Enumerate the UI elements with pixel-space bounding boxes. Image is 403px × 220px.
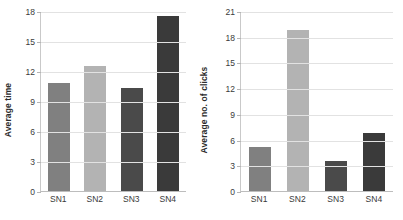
x-tick-label: SN4 bbox=[355, 194, 393, 204]
plot-wrapper-right: 036912151821 SN1SN2SN3SN4 bbox=[216, 0, 395, 220]
y-tick-label: 18 bbox=[26, 8, 35, 17]
y-tick-mark bbox=[37, 72, 41, 73]
bar-slot bbox=[317, 12, 355, 191]
x-tick-label: SN2 bbox=[77, 194, 114, 204]
gridline bbox=[41, 72, 186, 73]
gridline bbox=[241, 192, 393, 193]
gridline bbox=[241, 115, 393, 116]
y-tick-mark bbox=[37, 12, 41, 13]
plot-area-left bbox=[40, 12, 186, 192]
x-tick-label: SN1 bbox=[240, 194, 278, 204]
gridline bbox=[241, 141, 393, 142]
y-tick-label: 0 bbox=[30, 188, 35, 197]
x-axis-labels-right: SN1SN2SN3SN4 bbox=[240, 194, 393, 204]
y-tick-mark bbox=[37, 42, 41, 43]
gridline bbox=[41, 12, 186, 13]
y-tick-mark bbox=[237, 12, 241, 13]
y-tick-mark bbox=[237, 89, 241, 90]
bar-slot bbox=[355, 12, 393, 191]
y-tick-label: 21 bbox=[226, 8, 235, 17]
gridline bbox=[241, 12, 393, 13]
y-tick-mark bbox=[37, 162, 41, 163]
y-tick-mark bbox=[237, 38, 241, 39]
y-tick-mark bbox=[237, 115, 241, 116]
y-tick-label: 18 bbox=[226, 33, 235, 42]
plot-wrapper-left: 0369121518 SN1SN2SN3SN4 bbox=[16, 0, 188, 220]
gridline bbox=[41, 102, 186, 103]
y-tick-label: 12 bbox=[26, 68, 35, 77]
bar bbox=[84, 66, 106, 191]
y-tick-mark bbox=[237, 192, 241, 193]
x-axis-labels-left: SN1SN2SN3SN4 bbox=[40, 194, 186, 204]
y-axis-title-left-text: Average time bbox=[3, 83, 13, 137]
bar-group-right bbox=[241, 12, 393, 191]
bar bbox=[121, 88, 143, 191]
bar-slot bbox=[241, 12, 279, 191]
gridline bbox=[41, 192, 186, 193]
chart-panel-average-clicks: Average no. of clicks 036912151821 SN1SN… bbox=[196, 0, 403, 220]
y-tick-mark bbox=[237, 63, 241, 64]
x-tick-label: SN3 bbox=[317, 194, 355, 204]
x-tick-label: SN1 bbox=[40, 194, 77, 204]
x-tick-label: SN3 bbox=[113, 194, 150, 204]
y-axis-title-right: Average no. of clicks bbox=[196, 0, 212, 220]
y-tick-mark bbox=[237, 141, 241, 142]
plot-area-right bbox=[240, 12, 393, 192]
gridline bbox=[241, 89, 393, 90]
y-tick-mark bbox=[37, 132, 41, 133]
y-axis-title-left: Average time bbox=[0, 0, 16, 220]
y-tick-label: 9 bbox=[30, 98, 35, 107]
y-tick-label: 15 bbox=[226, 59, 235, 68]
y-tick-label: 6 bbox=[30, 128, 35, 137]
y-tick-mark bbox=[37, 102, 41, 103]
gridline bbox=[241, 63, 393, 64]
gridline bbox=[241, 38, 393, 39]
bar bbox=[48, 83, 70, 191]
bar-slot bbox=[279, 12, 317, 191]
y-tick-label: 9 bbox=[230, 111, 235, 120]
y-axis-ticks-right: 036912151821 bbox=[216, 0, 238, 220]
y-tick-mark bbox=[37, 192, 41, 193]
y-tick-label: 15 bbox=[26, 38, 35, 47]
gridline bbox=[41, 132, 186, 133]
bar-chart-figure: Average time 0369121518 SN1SN2SN3SN4 Ave… bbox=[0, 0, 403, 220]
bar bbox=[249, 147, 271, 191]
x-tick-label: SN2 bbox=[278, 194, 316, 204]
y-axis-title-right-text: Average no. of clicks bbox=[199, 67, 209, 154]
gridline bbox=[241, 166, 393, 167]
y-tick-label: 12 bbox=[226, 85, 235, 94]
y-tick-label: 3 bbox=[230, 162, 235, 171]
gridline bbox=[41, 42, 186, 43]
y-tick-label: 3 bbox=[30, 158, 35, 167]
gridline bbox=[41, 162, 186, 163]
y-tick-label: 6 bbox=[230, 136, 235, 145]
y-tick-mark bbox=[237, 166, 241, 167]
y-axis-ticks-left: 0369121518 bbox=[16, 0, 38, 220]
y-tick-label: 0 bbox=[230, 188, 235, 197]
x-tick-label: SN4 bbox=[150, 194, 187, 204]
chart-panel-average-time: Average time 0369121518 SN1SN2SN3SN4 bbox=[0, 0, 196, 220]
